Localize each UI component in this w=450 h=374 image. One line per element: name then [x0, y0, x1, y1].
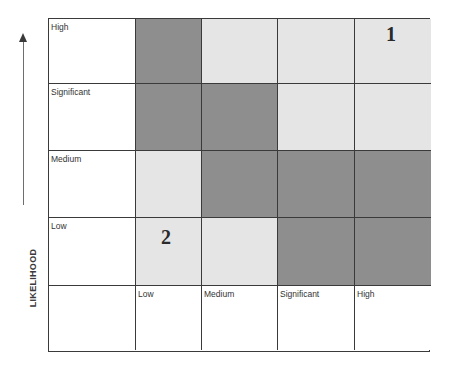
- column-label: Medium: [204, 289, 234, 299]
- row-label: Low: [51, 221, 67, 231]
- risk-marker-2: 2: [161, 226, 171, 249]
- matrix-cell: [136, 151, 202, 218]
- matrix-cell: 1: [355, 19, 431, 84]
- risk-marker-1: 1: [386, 23, 396, 46]
- risk-matrix: High 1 Significant Medium Low 2 Low Medi…: [48, 18, 430, 352]
- column-label-cell: Medium: [202, 286, 278, 350]
- matrix-cell: [355, 151, 431, 218]
- matrix-cell: [136, 84, 202, 151]
- column-label-cell: Low: [136, 286, 202, 350]
- likelihood-arrow-line: [23, 40, 24, 205]
- matrix-cell: [278, 84, 355, 151]
- matrix-cell: [202, 151, 278, 218]
- row-label-cell: High: [49, 19, 136, 84]
- matrix-cell: [278, 19, 355, 84]
- column-label: Low: [138, 289, 154, 299]
- corner-cell: [49, 286, 136, 350]
- row-label: Medium: [51, 154, 81, 164]
- matrix-cell: [202, 84, 278, 151]
- y-axis-label: LIKELIHOOD: [28, 249, 38, 308]
- matrix-cell: [278, 151, 355, 218]
- column-label: High: [357, 289, 374, 299]
- column-label-cell: High: [355, 286, 431, 350]
- column-label-cell: Significant: [278, 286, 355, 350]
- matrix-cell: [355, 218, 431, 286]
- row-label: Significant: [51, 87, 90, 97]
- row-label: High: [51, 22, 68, 32]
- matrix-cell: [278, 218, 355, 286]
- row-label-cell: Significant: [49, 84, 136, 151]
- column-label: Significant: [280, 289, 319, 299]
- matrix-cell: [202, 218, 278, 286]
- row-label-cell: Low: [49, 218, 136, 286]
- arrow-up-icon: [19, 33, 27, 42]
- matrix-cell: [202, 19, 278, 84]
- matrix-cell: 2: [136, 218, 202, 286]
- matrix-cell: [355, 84, 431, 151]
- row-label-cell: Medium: [49, 151, 136, 218]
- matrix-cell: [136, 19, 202, 84]
